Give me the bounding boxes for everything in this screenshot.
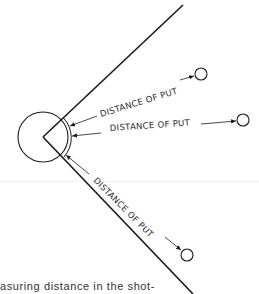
label-distance-middle: DISTANCE OF PUT — [109, 117, 190, 133]
label-distance-upper: DISTANCE OF PUT — [99, 86, 179, 119]
shot-landing-upper — [195, 68, 207, 80]
sector-line-upper — [43, 5, 183, 137]
figure-caption: asuring distance in the shot- — [0, 280, 155, 292]
arrow-to-shot-upper — [180, 76, 194, 80]
label-distance-lower: DISTANCE OF PUT — [92, 175, 156, 239]
arrow-upper-to-arc — [70, 116, 97, 126]
arrow-to-shot-lower — [165, 237, 181, 250]
sector-line-lower — [43, 137, 193, 294]
shot-landing-middle — [237, 114, 249, 126]
shot-landing-lower — [181, 249, 193, 261]
arrow-to-shot-middle — [201, 121, 236, 124]
arrow-middle-to-arc — [72, 133, 101, 136]
shot-put-distance-diagram: DISTANCE OF PUT DISTANCE OF PUT DISTANCE… — [0, 0, 259, 294]
